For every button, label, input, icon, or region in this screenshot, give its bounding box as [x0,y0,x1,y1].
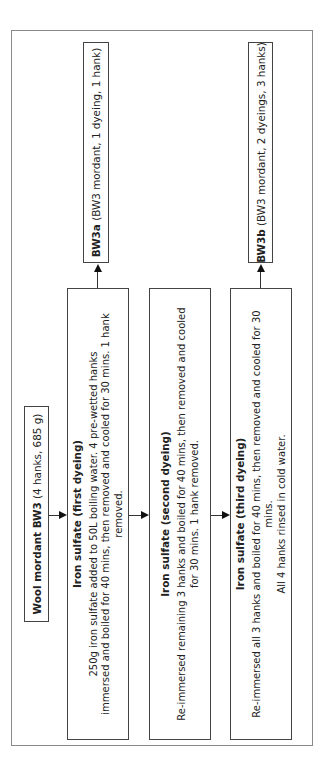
step-box-third-dyeing: Iron sulfate (third dyeing) Re-immersed … [230,288,292,740]
arrow-right-icon [94,264,102,272]
step-description: Re-immersed all 3 hanks and boiled for 4… [251,289,288,739]
step-line: for 30 mins. 1 hank removed. [189,307,201,720]
step-description: Re-immersed remaining 3 hanks and boiled… [176,299,200,728]
step-line: immersed and boiled for 40 mins, then re… [100,297,124,731]
step-title: Iron sulfate (second dyeing) [159,431,171,597]
source-detail: (4 hanks, 685 g) [31,414,43,503]
output-box-bw3a: BW3a (BW3 mordant, 1 dyeing, 1 hank) [83,42,109,263]
step-box-second-dyeing: Iron sulfate (second dyeing) Re-immersed… [149,288,211,740]
output-name: BW3a [90,224,102,257]
connector-line [260,271,261,288]
step-description: 250g iron sulfate added to 50L boiling w… [88,289,125,739]
source-name: Wool mordant BW3 [31,502,43,614]
output-box-bw3b: BW3b (BW3 mordant, 2 dyeings, 3 hanks) [248,42,273,263]
arrow-down-icon [59,511,67,519]
step-line: Re-immersed remaining 3 hanks and boiled… [176,307,188,720]
arrow-down-icon [141,511,149,519]
flowchart-canvas: Wool mordant BW3 (4 hanks, 685 g) Iron s… [0,0,334,778]
step-line: All 4 hanks rinsed in cold water. [276,297,288,731]
step-line: Re-immersed all 3 hanks and boiled for 4… [251,297,275,731]
connector-line [129,515,141,516]
step-title: Iron sulfate (third dyeing) [234,438,246,591]
arrow-right-icon [257,264,265,272]
step-line: 250g iron sulfate added to 50L boiling w… [88,297,100,731]
arrow-down-icon [222,511,230,519]
connector-line [97,271,98,288]
step-box-first-dyeing: Iron sulfate (first dyeing) 250g iron su… [67,288,129,740]
output-detail: (BW3 mordant, 1 dyeing, 1 hank) [90,48,102,224]
connector-line [211,515,222,516]
output-name: BW3b [255,229,267,262]
step-title: Iron sulfate (first dyeing) [71,440,83,588]
connector-line [49,515,59,516]
output-detail: (BW3 mordant, 2 dyeings, 3 hanks) [255,42,267,229]
source-box-wool-mordant-bw3: Wool mordant BW3 (4 hanks, 685 g) [24,406,49,622]
